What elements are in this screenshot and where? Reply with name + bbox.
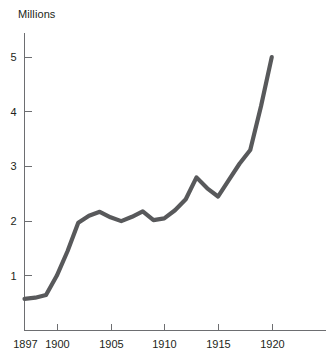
x-tick-label: 1900 — [45, 338, 69, 350]
y-tick-label: 4 — [10, 106, 16, 118]
x-tick-label: 1910 — [152, 338, 176, 350]
x-tick-label: 1905 — [99, 338, 123, 350]
chart-plot-area: 12345 189719001905191019151920 — [0, 0, 334, 364]
y-tick-label: 1 — [10, 270, 16, 282]
x-tick-label: 1897 — [13, 338, 37, 350]
data-series-line — [25, 57, 272, 299]
x-axis-tick-labels: 189719001905191019151920 — [13, 338, 284, 350]
y-axis-tick-labels: 12345 — [10, 51, 16, 282]
x-tick-label: 1915 — [206, 338, 230, 350]
y-axis-tick-marks — [25, 57, 32, 276]
y-tick-label: 5 — [10, 51, 16, 63]
x-axis-tick-marks — [58, 324, 273, 331]
y-tick-label: 2 — [10, 215, 16, 227]
y-tick-label: 3 — [10, 160, 16, 172]
x-tick-label: 1920 — [260, 338, 284, 350]
line-chart: Millions 12345 189719001905191019151920 — [0, 0, 334, 364]
